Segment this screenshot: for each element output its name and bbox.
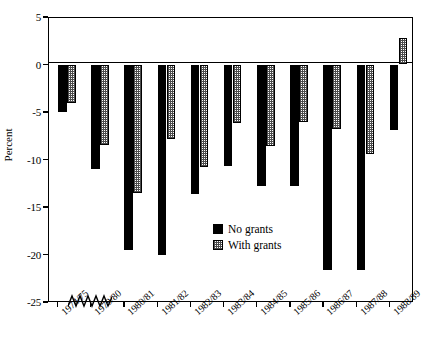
bar-1986-87-with-grants xyxy=(332,65,341,130)
bar-1986-87-no-grants xyxy=(323,65,332,270)
legend-item-no-grants: No grants xyxy=(213,222,282,236)
bar-1983-84-with-grants xyxy=(233,65,242,124)
legend-label-no-grants: No grants xyxy=(228,222,273,236)
bar-1974-75-no-grants xyxy=(58,65,67,113)
bar-1981-82-no-grants xyxy=(158,65,167,255)
bar-1985-86-with-grants xyxy=(299,65,308,123)
bar-1980-81-no-grants xyxy=(124,65,133,250)
bar-1982-83-no-grants xyxy=(191,65,200,194)
legend-swatch-no-grants-icon xyxy=(213,224,223,234)
bar-1983-84-no-grants xyxy=(224,65,233,167)
bar-1988-89-with-grants xyxy=(399,38,408,65)
legend-label-with-grants: With grants xyxy=(228,238,282,252)
bar-chart: 50-5-10-15-20-25 Percent 1974/751979/801… xyxy=(0,0,433,349)
legend: No grants With grants xyxy=(213,222,282,254)
bar-1982-83-with-grants xyxy=(200,65,209,168)
bar-1979-80-no-grants xyxy=(91,65,100,170)
bar-1988-89-no-grants xyxy=(390,65,399,131)
bar-1980-81-with-grants xyxy=(133,65,142,193)
bar-1984-85-no-grants xyxy=(257,65,266,187)
legend-swatch-with-grants-icon xyxy=(213,240,223,250)
legend-item-with-grants: With grants xyxy=(213,238,282,252)
bar-1987-88-with-grants xyxy=(366,65,375,154)
bar-1985-86-no-grants xyxy=(290,65,299,187)
bar-series-group xyxy=(0,0,433,349)
bar-1974-75-with-grants xyxy=(67,65,76,103)
bar-1984-85-with-grants xyxy=(266,65,275,147)
bar-1981-82-with-grants xyxy=(167,65,176,139)
bar-1987-88-no-grants xyxy=(357,65,366,270)
bar-1979-80-with-grants xyxy=(100,65,109,146)
